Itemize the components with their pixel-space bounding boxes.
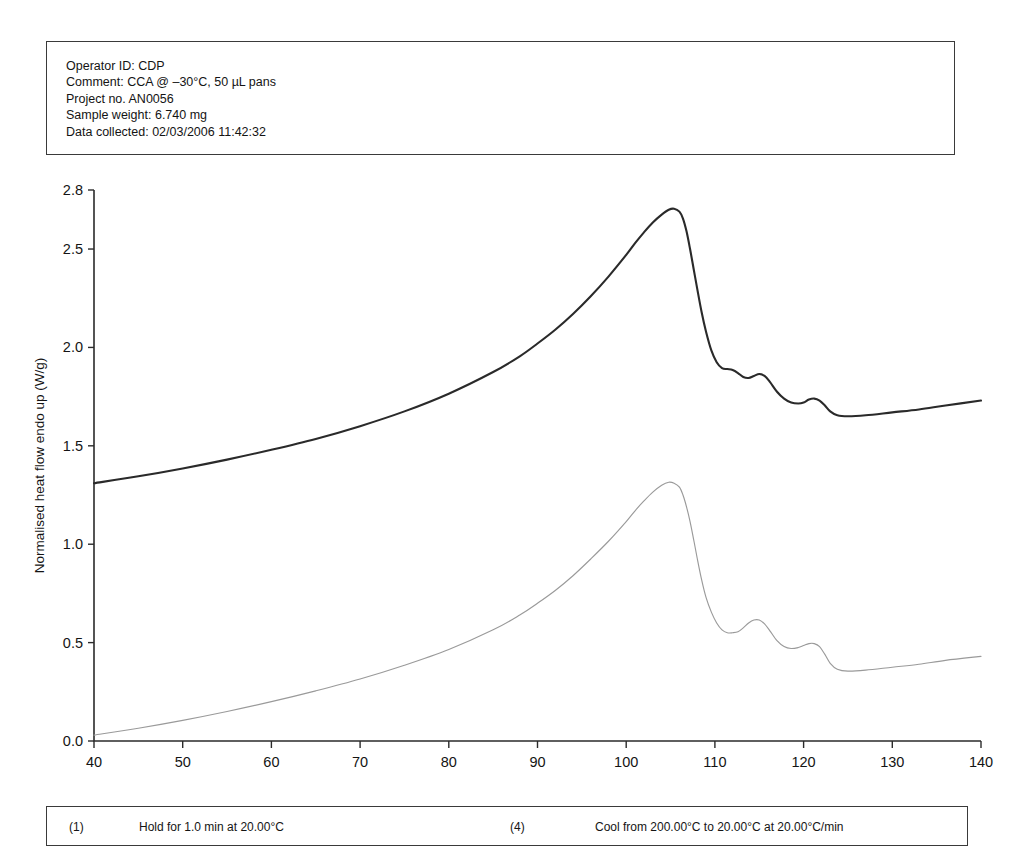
sample-info-line-5: Data collected: 02/03/2006 11:42:32 — [66, 124, 276, 140]
y-tick-label: 0.0 — [63, 733, 83, 749]
sample-info-line-4: Sample weight: 6.740 mg — [66, 107, 276, 123]
y-tick-label: 1.5 — [63, 438, 83, 454]
y-axis-title: Normalised heat flow endo up (W/g) — [32, 358, 47, 573]
x-tick-label: 140 — [969, 754, 993, 770]
x-tick-label: 90 — [529, 754, 545, 770]
step-4-number: (4) — [510, 820, 525, 834]
step-1-text: Hold for 1.0 min at 20.00°C — [139, 820, 284, 834]
y-tick-label: 1.0 — [63, 536, 83, 552]
thermogram-plot: 0.00.51.01.52.02.52.8 405060708090100110… — [0, 168, 1016, 788]
x-tick-label: 80 — [441, 754, 457, 770]
axis-frame — [94, 190, 981, 741]
plot-svg: 0.00.51.01.52.02.52.8 405060708090100110… — [0, 168, 1016, 788]
step-1-number: (1) — [69, 820, 84, 834]
y-tick-label: 2.0 — [63, 339, 83, 355]
x-tick-label: 100 — [614, 754, 638, 770]
sample-info-box: Operator ID: CDPComment: CCA @ –30°C, 50… — [46, 41, 955, 155]
x-tick-label: 50 — [175, 754, 191, 770]
step-4-text: Cool from 200.00°C to 20.00°C at 20.00°C… — [595, 820, 844, 834]
series-upper-trace — [94, 209, 981, 484]
sample-info-line-2: Comment: CCA @ –30°C, 50 µL pans — [66, 74, 276, 90]
x-axis-ticks: 405060708090100110120130140 — [86, 741, 993, 770]
x-tick-label: 130 — [880, 754, 904, 770]
series-lower-trace — [94, 482, 981, 735]
x-tick-label: 70 — [352, 754, 368, 770]
method-steps-box: (1) Hold for 1.0 min at 20.00°C (4) Cool… — [46, 806, 968, 846]
x-tick-label: 110 — [703, 754, 726, 770]
y-tick-label: 2.8 — [63, 182, 83, 198]
y-tick-label: 0.5 — [63, 635, 83, 651]
x-tick-label: 120 — [791, 754, 815, 770]
sample-info-line-3: Project no. AN0056 — [66, 91, 276, 107]
sample-info-lines: Operator ID: CDPComment: CCA @ –30°C, 50… — [66, 58, 276, 140]
sample-info-line-1: Operator ID: CDP — [66, 58, 276, 74]
y-tick-label: 2.5 — [63, 241, 83, 257]
x-tick-label: 40 — [86, 754, 102, 770]
x-tick-label: 60 — [263, 754, 279, 770]
x-axis-title: Temperature (°C) — [486, 786, 590, 788]
y-axis-ticks: 0.00.51.01.52.02.52.8 — [63, 182, 94, 749]
